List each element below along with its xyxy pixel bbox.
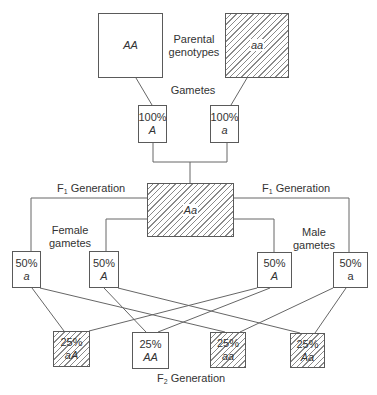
f2-genotype: aA — [60, 349, 82, 362]
f1-Aa-box: Aa — [147, 183, 234, 237]
subscript: 2 — [164, 378, 168, 385]
label-line: genotypes — [165, 46, 223, 59]
parent-genotype: AA — [123, 39, 138, 51]
f2-genotype: Aa — [296, 351, 318, 364]
parent-AA-box: AA — [98, 13, 163, 78]
f1-generation-label-left: F1 Generation — [57, 182, 125, 198]
label-line: gametes — [46, 237, 94, 250]
f-letter: F — [57, 182, 64, 194]
f2-genotype: aa — [217, 350, 239, 363]
f2-percent: 25% — [60, 336, 82, 349]
label-line: Female — [46, 224, 94, 237]
f-letter: F — [157, 372, 164, 384]
subscript: 1 — [269, 188, 273, 195]
generation-text: Generation — [171, 372, 225, 384]
label-line: gametes — [290, 239, 338, 252]
f1-generation-label-right: F1 Generation — [262, 182, 330, 198]
subscript: 1 — [64, 188, 68, 195]
gamete-allele: a — [210, 124, 238, 137]
label-line: Male — [290, 226, 338, 239]
male-gametes-label: Male gametes — [290, 226, 338, 252]
f-letter: F — [262, 182, 269, 194]
gamete-percent: 100% — [210, 111, 238, 124]
gamete-allele: A — [263, 270, 285, 283]
parental-genotypes-label: Parental genotypes — [165, 33, 223, 59]
label-line: Parental — [165, 33, 223, 46]
female-gamete-A-box: 50%A — [89, 251, 119, 288]
gamete-allele: A — [93, 270, 115, 283]
gamete-percent: 50% — [339, 257, 361, 270]
f2-percent: 25% — [139, 338, 161, 351]
parent-aa-box: aa — [225, 13, 289, 78]
f2-Aa-box: 25%Aa — [290, 333, 325, 368]
f2-genotype: AA — [139, 351, 161, 364]
generation-text: Generation — [276, 182, 330, 194]
gamete-allele: a — [339, 270, 361, 283]
f2-percent: 25% — [217, 337, 239, 350]
male-gamete-a-box: 50%a — [333, 252, 368, 288]
generation-text: Generation — [71, 182, 125, 194]
male-gamete-A-box: 50%A — [257, 252, 292, 288]
gamete-percent: 50% — [263, 257, 285, 270]
gamete-percent: 50% — [93, 257, 115, 270]
f2-aa-box: 25%aa — [210, 332, 246, 368]
parent-genotype: aa — [250, 39, 264, 51]
gametes-label: Gametes — [168, 84, 218, 97]
f1-genotype: Aa — [183, 204, 198, 216]
f2-generation-label: F2 Generation — [157, 372, 225, 388]
monohybrid-cross-diagram: AA aa Parental genotypes Gametes 100%A 1… — [0, 0, 377, 395]
f2-aA-box: 25%aA — [53, 331, 90, 367]
gamete-allele: a — [15, 270, 37, 283]
gamete-percent: 50% — [15, 257, 37, 270]
gamete-box-A: 100%A — [138, 105, 167, 143]
gamete-box-a: 100%a — [210, 105, 239, 143]
female-gametes-label: Female gametes — [46, 224, 94, 250]
female-gamete-a-box: 50%a — [12, 251, 41, 288]
f2-percent: 25% — [296, 338, 318, 351]
gamete-percent: 100% — [138, 111, 166, 124]
gamete-allele: A — [138, 124, 166, 137]
f2-AA-box: 25%AA — [132, 332, 169, 369]
